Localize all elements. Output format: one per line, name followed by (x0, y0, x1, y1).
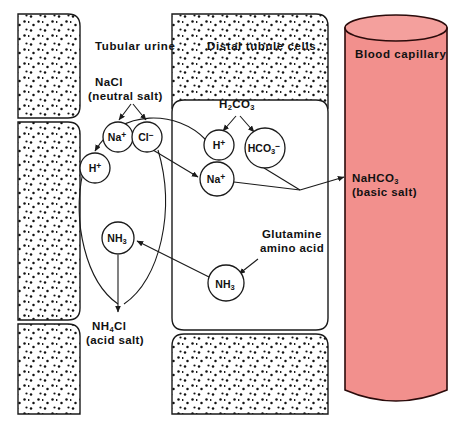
label-nh4cl-note: (acid salt) (86, 334, 144, 346)
left-wall-cell-middle (18, 122, 80, 320)
species-h-cell: H+ (204, 130, 234, 160)
label-h2co3-h: H (219, 98, 228, 110)
blood-capillary-vessel (345, 15, 447, 401)
label-h2co3-co: CO (232, 98, 250, 110)
species-hco3-cell: HCO3− (245, 128, 285, 168)
species-na-cell: Na+ (200, 162, 234, 196)
species-nh3-cell: NH3 (208, 265, 244, 301)
label-nh4cl-rest: Cl (114, 320, 126, 332)
capillary-body (345, 28, 447, 401)
diagram-canvas: H+ Na+ Cl− NH3 H+ HCO3− Na+ (0, 0, 456, 427)
svg-text:H2CO3: H2CO3 (219, 98, 255, 112)
compartment-label-tubular-urine: Tubular urine (95, 40, 175, 52)
left-wall-cell-top (18, 14, 80, 118)
label-h2co3: H2CO3 (219, 98, 255, 112)
label-nahco3-sub: 3 (394, 177, 399, 186)
label-nacl-note: (neutral salt) (88, 90, 163, 102)
distal-cell-top-stippled (172, 14, 328, 108)
capillary-top-ellipse (345, 15, 447, 41)
label-nahco3-main: NaHCO (352, 172, 394, 184)
left-tubule-wall (18, 14, 80, 414)
label-glutamine-line2: amino acid (260, 242, 324, 254)
svg-text:NH4Cl: NH4Cl (92, 320, 126, 334)
species-nh3-urine: NH3 (102, 222, 134, 254)
label-nahco3-note: (basic salt) (352, 186, 417, 198)
compartment-label-blood-capillary: Blood capillary (355, 48, 446, 60)
label-h2co3-sub2: 3 (250, 103, 255, 112)
label-nh4cl: NH4Cl (acid salt) (86, 320, 144, 346)
compartment-label-distal-tubule-cells: Distal tubule cells (207, 40, 316, 52)
species-h-urine: H+ (80, 153, 110, 183)
species-cl-urine: Cl− (132, 122, 162, 152)
label-glutamine-line1: Glutamine (262, 228, 322, 240)
label-nh4cl-main: NH (92, 320, 109, 332)
distal-cell-bottom-stippled (172, 334, 328, 414)
distal-tubule-wall (172, 14, 328, 414)
renal-tubule-diagram: H+ Na+ Cl− NH3 H+ HCO3− Na+ (0, 0, 456, 427)
svg-text:NaHCO3: NaHCO3 (352, 172, 399, 186)
arrow-nacl-to-na (119, 104, 131, 120)
label-nacl: NaCl (95, 76, 123, 88)
left-wall-cell-bottom (18, 324, 80, 414)
species-na-urine: Na+ (103, 122, 133, 152)
